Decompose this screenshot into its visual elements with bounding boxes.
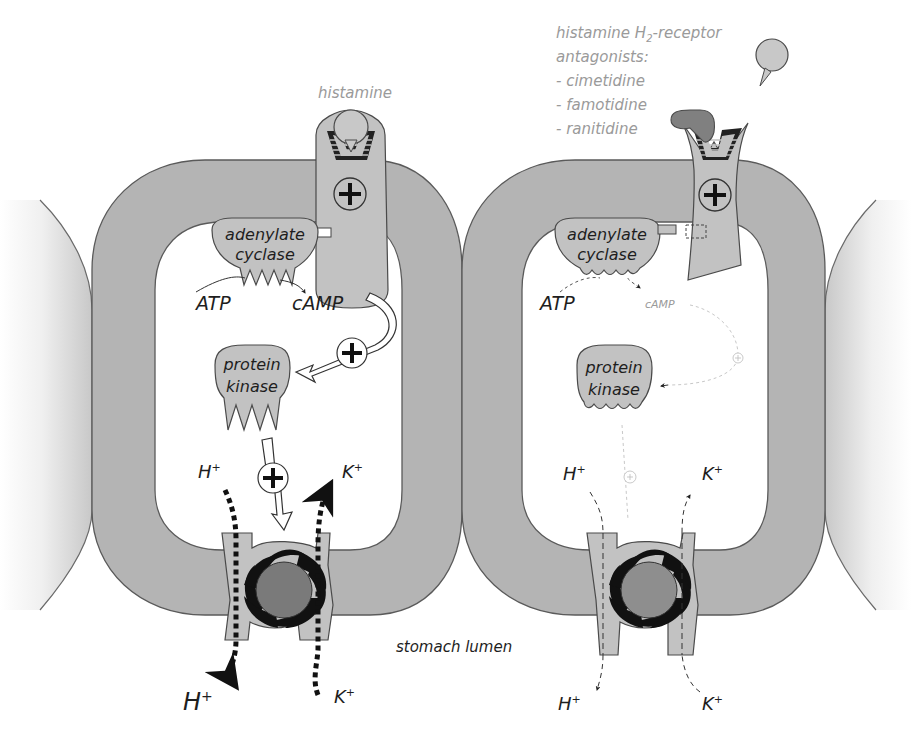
camp-label-faint: cAMP [645, 298, 675, 311]
protein-kinase-active: protein kinase [215, 345, 290, 430]
atp-label-right: ATP [538, 292, 575, 314]
h-ion-out-arrow [228, 675, 235, 685]
camp-path-faint [668, 305, 738, 385]
h-ion-in-label-right: H+ [563, 463, 586, 484]
receptor-plus-icon [699, 179, 731, 211]
k-ion-in-arrow [325, 485, 330, 495]
svg-text:adenylate: adenylate [567, 225, 647, 244]
k-ion-out-label-right: K+ [702, 693, 723, 714]
svg-text:antagonists:: antagonists: [556, 48, 649, 66]
stomach-lumen-label: stomach lumen [396, 638, 512, 656]
free-histamine-molecule [756, 39, 788, 86]
antagonist-molecule [671, 110, 714, 142]
h-ion-path-weak [590, 492, 603, 533]
atp-to-camp-arrow-weak [560, 278, 640, 292]
k-ion-in-label-right: K+ [702, 463, 723, 484]
svg-text:cyclase: cyclase [235, 245, 295, 264]
receptor-activation-plus-icon [334, 178, 366, 210]
camp-path-arrowhead [661, 385, 668, 386]
antagonist-item: - cimetidine [556, 72, 645, 90]
k-ion-out-label: K+ [334, 686, 355, 707]
h2-receptor-active [316, 110, 388, 308]
camp-label: cAMP [292, 292, 344, 314]
h-ion-in-label: H+ [198, 461, 221, 482]
adenylate-cyclase-active: adenylate cyclase [212, 218, 318, 285]
svg-text:cyclase: cyclase [577, 245, 637, 264]
k-ion-in-label: K+ [342, 461, 363, 482]
antagonist-item: - ranitidine [556, 120, 638, 138]
atp-line [196, 277, 245, 292]
h-ion-out-label: H+ [183, 688, 213, 716]
h-ion-out-arrow-weak [597, 655, 603, 690]
neighbour-cell-right [825, 200, 911, 610]
histamine-label: histamine [318, 84, 392, 102]
h-ion-out-label-right: H+ [558, 693, 581, 714]
antagonist-heading: histamine H2-receptor [556, 24, 722, 44]
svg-text:adenylate: adenylate [225, 225, 305, 244]
svg-text:kinase: kinase [226, 377, 278, 396]
adenylate-cyclase-inactive: adenylate cyclase [555, 218, 676, 275]
atp-label: ATP [194, 292, 231, 314]
svg-text:protein: protein [222, 355, 280, 374]
proton-pump-inactive [587, 533, 698, 655]
diagram-canvas: histamine [0, 0, 911, 735]
svg-text:protein: protein [584, 358, 642, 377]
protein-kinase-inactive: protein kinase [577, 345, 652, 409]
antagonist-item: - famotidine [556, 96, 647, 114]
svg-text:kinase: kinase [588, 380, 640, 399]
kinase-activation-arrow [258, 438, 292, 530]
neighbour-cell-left [0, 200, 92, 610]
